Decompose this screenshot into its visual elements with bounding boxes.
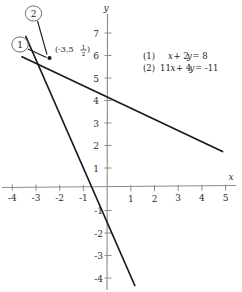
y-tick-label-3: 3 — [93, 119, 99, 129]
y-axis-label: y — [102, 3, 109, 13]
equation-2-x-term: x — [171, 63, 176, 73]
coordinate-plane-svg: -4 -3 -2 -1 1 2 3 4 5 7 6 5 4 3 2 1 -1 -… — [0, 0, 242, 292]
x-axis-line — [2, 186, 236, 188]
x-axis-label: x — [228, 172, 233, 182]
intersection-point-marker — [47, 56, 51, 60]
equation-2-tag: (2) — [143, 63, 155, 73]
equation-2-coefficient: 11 — [160, 63, 171, 73]
equation-1-rhs: = 8 — [193, 51, 208, 61]
graph-figure: -4 -3 -2 -1 1 2 3 4 5 7 6 5 4 3 2 1 -1 -… — [0, 0, 242, 292]
x-tick-label-4: 4 — [199, 193, 205, 203]
intersection-label-denominator: 2 — [82, 51, 86, 57]
equation-1-tag: (1) — [143, 51, 155, 61]
y-tick-label-neg3: -3 — [94, 251, 103, 261]
y-tick-label-4: 4 — [93, 96, 99, 106]
y-tick-label-1: 1 — [93, 164, 99, 174]
x-tick-label-neg1: -1 — [79, 193, 88, 203]
y-tick-label-neg4: -4 — [94, 274, 103, 284]
intersection-label-close: ) — [87, 45, 90, 54]
equation-1-x-term: x — [168, 51, 173, 61]
badge-one-label: 1 — [17, 40, 23, 50]
equation-legend: (1) x + 2 y = 8 (2) 11 x + 4 y = -11 — [143, 51, 219, 73]
y-tick-label-7: 7 — [93, 29, 99, 39]
x-tick-label-2: 2 — [152, 194, 158, 204]
badge-two-leader-line — [38, 21, 48, 55]
x-tick-label-neg3: -3 — [32, 193, 41, 203]
y-tick-marks — [105, 33, 112, 278]
y-tick-label-neg2: -2 — [94, 229, 103, 239]
x-tick-label-3: 3 — [175, 193, 181, 203]
badge-one-leader-line — [28, 49, 47, 58]
intersection-label-open: (-3,5 — [55, 45, 74, 54]
line-2-badge-group: 2 — [25, 6, 47, 55]
x-tick-label-neg4: -4 — [8, 193, 17, 203]
line-2-11x-plus-4y-equals-neg11 — [26, 37, 135, 286]
equation-2-y-term: y — [189, 63, 195, 73]
x-tick-label-5: 5 — [223, 193, 229, 203]
equation-1-y-term: y — [186, 51, 192, 61]
intersection-point-label: (-3,5 1 2 ) — [55, 44, 90, 57]
intersection-label-numerator: 1 — [82, 44, 86, 50]
y-tick-label-2: 2 — [93, 141, 99, 151]
equation-2-rhs: = -11 — [195, 63, 219, 73]
badge-two-label: 2 — [31, 9, 37, 19]
x-tick-label-1: 1 — [128, 194, 134, 204]
y-tick-label-6: 6 — [93, 51, 99, 61]
line-1-badge-group: 1 — [12, 37, 47, 58]
x-tick-label-neg2: -2 — [55, 193, 64, 203]
y-tick-label-5: 5 — [93, 74, 99, 84]
